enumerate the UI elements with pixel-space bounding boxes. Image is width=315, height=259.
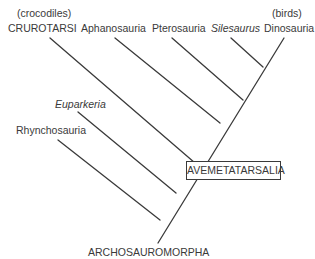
branch-euparkeria — [78, 112, 176, 193]
branch-silesaurus — [231, 38, 263, 67]
taxon-pterosauria: Pterosauria — [152, 22, 206, 34]
taxon-aphanosauria: Aphanosauria — [81, 22, 146, 34]
taxon-dinosauria: Dinosauria — [264, 22, 314, 34]
taxon-silesaurus: Silesaurus — [211, 22, 260, 34]
taxon-rhynchosauria: Rhynchosauria — [16, 124, 86, 136]
branch-rhynchosauria — [58, 140, 160, 220]
branch-pterosauria — [172, 38, 243, 100]
root-label: ARCHOSAUROMORPHA — [88, 246, 209, 258]
branch-aphanosauria — [115, 38, 220, 123]
branch-trunk — [158, 38, 284, 243]
dinosauria-note: (birds) — [272, 7, 302, 19]
avemetatarsalia-label-box: AVEMETATARSALIA — [186, 161, 281, 180]
taxon-euparkeria: Euparkeria — [55, 98, 106, 110]
crurotarsi-note: (crocodiles) — [17, 7, 71, 19]
taxon-crurotarsi: CRUROTARSI — [8, 22, 77, 34]
